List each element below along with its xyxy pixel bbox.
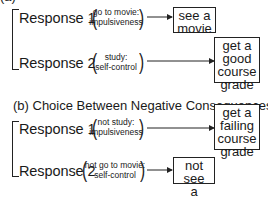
- detail-line-2: self-control: [87, 62, 145, 72]
- section-a-response-2-detail: study: self-control: [87, 52, 145, 72]
- section-a: (a) Response 1 ( go to movie: impulsiven…: [0, 0, 268, 95]
- section-b-response-2-detail: not go to movie: self-control: [82, 160, 148, 180]
- section-a-response-2-label: Response 2: [19, 55, 95, 71]
- close-paren: ): [139, 117, 144, 139]
- section-b-response-1-detail: not study: impulsiveness: [87, 117, 145, 137]
- close-paren: ): [139, 51, 144, 73]
- detail-line-1: study:: [87, 52, 145, 62]
- section-b-consequence-2: not see a movie: [173, 157, 215, 184]
- detail-line-2: impulsiveness: [87, 127, 145, 137]
- section-a-consequence-1: see a movie: [173, 7, 216, 33]
- section-a-response-1-detail: go to movie: impulsiveness: [87, 7, 145, 27]
- section-b-response-1-label: Response 1: [19, 121, 95, 137]
- section-a-bracket: [12, 9, 19, 70]
- section-a-response-1-label: Response 1: [19, 10, 95, 26]
- detail-line-1: not go to movie:: [82, 160, 148, 170]
- section-a-title: (a): [0, 0, 16, 4]
- detail-line-1: not study:: [87, 117, 145, 127]
- section-a-consequence-2: get a good course grade: [214, 37, 260, 83]
- section-b: (b) Choice Between Negative Consequences…: [0, 95, 268, 198]
- close-paren: ): [140, 159, 145, 181]
- section-b-bracket: [12, 121, 19, 177]
- detail-line-2: impulsiveness: [87, 17, 145, 27]
- close-paren: ): [139, 7, 144, 29]
- detail-line-1: go to movie:: [87, 7, 145, 17]
- section-b-consequence-1: get a failing course grade: [214, 104, 260, 150]
- detail-line-2: self-control: [82, 170, 148, 180]
